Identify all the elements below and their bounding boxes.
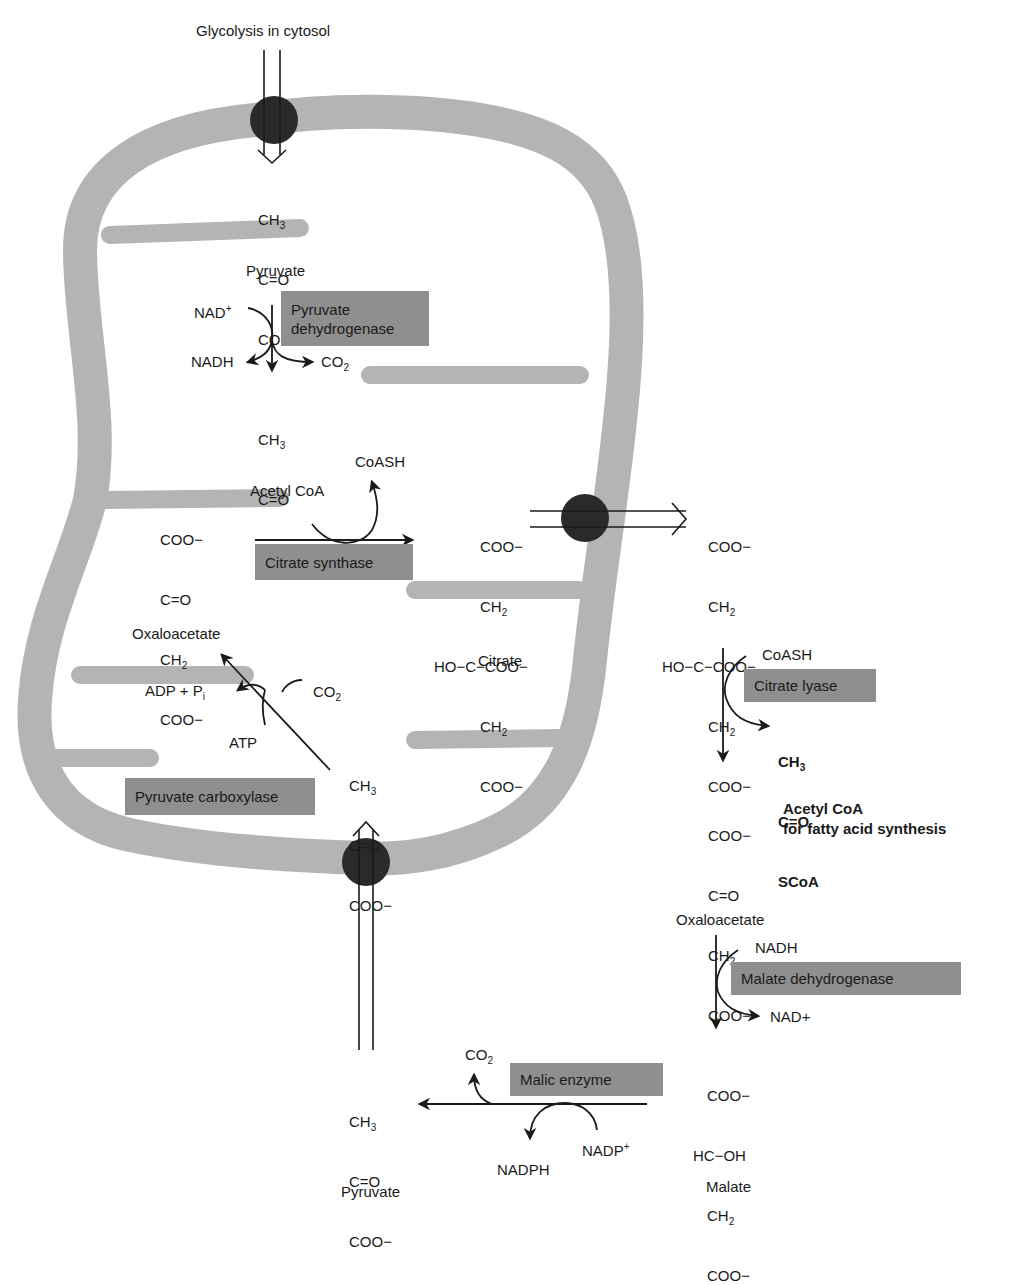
citrate-label-matrix: Citrate — [478, 652, 522, 670]
co2-label-malic: CO2 — [465, 1046, 493, 1070]
oxaloacetate-label-cytosol: Oxaloacetate — [676, 911, 764, 929]
malic-enzyme-box: Malic enzyme — [510, 1063, 663, 1096]
pyruvate-label-top: Pyruvate — [246, 262, 305, 280]
pyruvate-carboxylase-arrows — [222, 655, 330, 770]
co2-label-pc: CO2 — [313, 683, 341, 707]
glycolysis-label: Glycolysis in cytosol — [196, 22, 330, 40]
atp-label: ATP — [229, 734, 257, 752]
malate-label: Malate — [706, 1178, 751, 1196]
co2-label-pdh: CO2 — [321, 353, 349, 377]
pyruvate-label-cytosol: Pyruvate — [341, 1183, 400, 1201]
coash-label-2: CoASH — [762, 646, 812, 664]
coash-label-1: CoASH — [355, 453, 405, 471]
nadph-label: NADPH — [497, 1161, 550, 1179]
oxaloacetate-label-matrix: Oxaloacetate — [132, 625, 220, 643]
mitochondrial-membrane — [34, 112, 626, 859]
nad-plus-label-2: NAD+ — [770, 1008, 810, 1026]
nadp-plus-label: NADP+ — [582, 1138, 630, 1160]
pyruvate-dehydrogenase-box: Pyruvate dehydrogenase — [281, 291, 429, 346]
fatty-acid-synthesis-label: for fatty acid synthesis — [783, 820, 946, 838]
nadh-label: NADH — [191, 353, 234, 371]
citrate-synthase-box: Citrate synthase — [255, 544, 413, 580]
malate-structure: COO− HC−OH CH2 COO− — [693, 1046, 750, 1285]
oxaloacetate-structure-matrix: COO− C=O CH2 COO− — [160, 490, 203, 750]
adp-pi-label: ADP + Pi — [145, 682, 205, 706]
citrate-transporter — [561, 494, 609, 542]
acetyl-coa-label-matrix: Acetyl CoA — [250, 482, 324, 500]
acetyl-coa-label-cytosol: Acetyl CoA — [783, 800, 863, 818]
pyruvate-structure-matrix-bottom: CH3 C=O COO− — [349, 736, 392, 936]
citrate-lyase-box: Citrate lyase — [744, 669, 876, 702]
nad-plus-label: NAD+ — [194, 300, 232, 322]
pyruvate-carboxylase-box: Pyruvate carboxylase — [125, 778, 315, 815]
malate-dehydrogenase-box: Malate dehydrogenase — [731, 962, 961, 995]
pyruvate-structure-cytosol: CH3 C=O COO− — [349, 1072, 392, 1272]
pyruvate-transporter-top — [250, 96, 298, 144]
citrate-structure-cytosol: COO− CH2 HO−C−COO− CH2 COO− — [662, 497, 756, 817]
nadh-label-2: NADH — [755, 939, 798, 957]
